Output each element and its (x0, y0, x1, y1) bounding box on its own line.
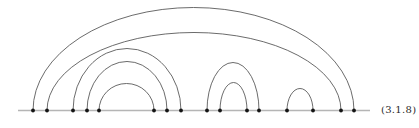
point-dot (97, 109, 101, 113)
point-dot (218, 109, 222, 113)
arc (87, 61, 167, 110)
point-dot (245, 109, 249, 113)
point-dot (179, 109, 183, 113)
arc (33, 8, 354, 111)
point-dot (339, 109, 343, 113)
arc (73, 49, 181, 111)
figure-canvas: (3.1.8) (0, 0, 419, 128)
point-dot (152, 109, 156, 113)
point-dot (311, 109, 315, 113)
arc (220, 83, 247, 111)
arc (47, 32, 341, 110)
point-dot (85, 109, 89, 113)
point-dot (45, 109, 49, 113)
equation-number: (3.1.8) (381, 104, 416, 116)
point-dot (31, 109, 35, 113)
point-dot (205, 109, 209, 113)
point-dot (71, 109, 75, 113)
arc-diagram (0, 0, 419, 128)
point-dot (285, 109, 289, 113)
arc (207, 63, 259, 111)
point-dot (257, 109, 261, 113)
arc (287, 89, 313, 111)
point-dot (352, 109, 356, 113)
point-dot (165, 109, 169, 113)
arc (99, 84, 154, 111)
